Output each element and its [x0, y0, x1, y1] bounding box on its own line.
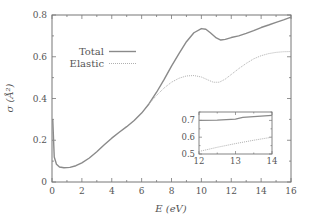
x-axis-label: E (eV) [154, 203, 187, 214]
x-tick-label: 0 [49, 186, 55, 196]
cross-section-chart: 024681012141600.20.40.60.8 Total Elastic… [0, 0, 309, 222]
legend: Total Elastic [70, 46, 136, 69]
y-tick-label: 0.4 [33, 94, 48, 104]
series-line-elastic [149, 52, 291, 104]
x-tick-label: 6 [139, 186, 145, 196]
x-tick-label: 4 [109, 186, 115, 196]
y-axis-label: σ (Å²) [4, 83, 15, 112]
inset-x-tick-label: 14 [267, 156, 278, 166]
x-tick-label: 8 [169, 186, 175, 196]
inset-plot: 1213140.50.60.7 [181, 111, 277, 166]
x-tick-label: 10 [196, 186, 208, 196]
legend-label-total: Total [79, 46, 104, 57]
legend-label-elastic: Elastic [70, 58, 105, 69]
x-tick-label: 16 [285, 186, 297, 196]
y-tick-label: 0.8 [33, 10, 48, 20]
inset-y-tick-label: 0.7 [181, 115, 195, 125]
inset-y-tick-label: 0.6 [181, 132, 195, 142]
y-tick-label: 0.2 [33, 135, 47, 145]
inset-y-tick-label: 0.5 [181, 149, 195, 159]
y-tick-label: 0.6 [33, 52, 48, 62]
plot-frame [52, 15, 291, 182]
y-tick-label: 0 [41, 177, 47, 187]
main-plot-area: 024681012141600.20.40.60.8 [33, 10, 297, 196]
x-tick-label: 14 [255, 186, 267, 196]
x-tick-label: 12 [226, 186, 237, 196]
inset-x-tick-label: 12 [194, 156, 205, 166]
inset-x-tick-label: 13 [230, 156, 241, 166]
x-tick-label: 2 [79, 186, 85, 196]
